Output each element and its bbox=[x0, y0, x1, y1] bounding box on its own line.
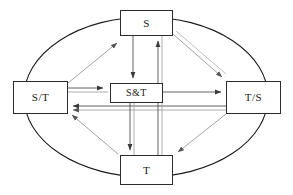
edge-t-to-st bbox=[72, 115, 118, 154]
diagram-canvas: S S/T S&T T/S T bbox=[0, 0, 293, 195]
edge-st-to-s bbox=[68, 43, 117, 83]
node-box-st[interactable]: S/T bbox=[13, 81, 68, 114]
node-label-ts: T/S bbox=[245, 92, 262, 103]
node-box-sandt[interactable]: S&T bbox=[110, 83, 163, 103]
node-label-sandt: S&T bbox=[126, 88, 147, 98]
node-box-s[interactable]: S bbox=[120, 10, 173, 36]
node-label-st: S/T bbox=[32, 92, 49, 103]
edge-st-to-sandt bbox=[68, 88, 108, 92]
edge-s-to-ts bbox=[173, 31, 226, 77]
edge-ts-to-t bbox=[178, 114, 226, 152]
node-label-s: S bbox=[143, 18, 150, 29]
node-box-t[interactable]: T bbox=[120, 155, 173, 185]
edge-sandt-to-t bbox=[130, 103, 134, 155]
node-label-t: T bbox=[143, 165, 150, 176]
node-box-ts[interactable]: T/S bbox=[226, 81, 281, 114]
edge-ts-to-st bbox=[73, 106, 226, 110]
